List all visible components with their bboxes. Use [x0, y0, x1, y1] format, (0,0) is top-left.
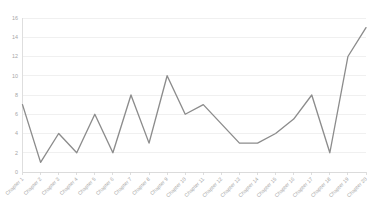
y-axis-tick-label: 0	[15, 169, 18, 175]
chart-canvas: 0246810121416 Chapter 1Chapter 2Chapter …	[0, 0, 374, 216]
y-axis-tick-label: 10	[12, 73, 18, 79]
line-chart: 0246810121416 Chapter 1Chapter 2Chapter …	[0, 0, 374, 216]
y-axis-tick-label: 8	[15, 92, 18, 98]
y-axis-tick-label: 2	[15, 150, 18, 156]
y-axis-tick-label: 16	[12, 15, 18, 21]
y-axis-tick-label: 12	[12, 53, 18, 59]
y-axis-tick-label: 14	[12, 34, 18, 40]
y-axis-tick-label: 6	[15, 111, 18, 117]
y-axis-tick-label: 4	[15, 130, 18, 136]
